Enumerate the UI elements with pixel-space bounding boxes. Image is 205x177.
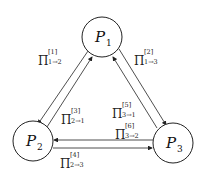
- edge-label-2-to-3: Π[4]2→3: [60, 155, 70, 171]
- svg-text:3: 3: [177, 144, 183, 154]
- node-p3: P 3: [153, 123, 193, 163]
- edge-label-1-to-3: Π[2]1→3: [134, 52, 144, 68]
- diagram-canvas: P 1 P 2 P 3: [0, 0, 205, 177]
- svg-text:1: 1: [106, 38, 112, 48]
- edge-label-1-to-2: Π[1]1→2: [38, 52, 48, 68]
- node-p1: P 1: [82, 17, 122, 57]
- node-p2: P 2: [13, 121, 53, 161]
- svg-text:P: P: [94, 28, 106, 46]
- svg-text:P: P: [25, 132, 37, 150]
- edge-label-3-to-1: Π[5]3→1: [112, 105, 122, 121]
- svg-text:P: P: [165, 134, 177, 152]
- svg-text:2: 2: [37, 142, 43, 152]
- edge-label-2-to-1: Π[3]2→1: [61, 111, 71, 127]
- edge-label-3-to-2: Π[6]3→2: [115, 126, 125, 142]
